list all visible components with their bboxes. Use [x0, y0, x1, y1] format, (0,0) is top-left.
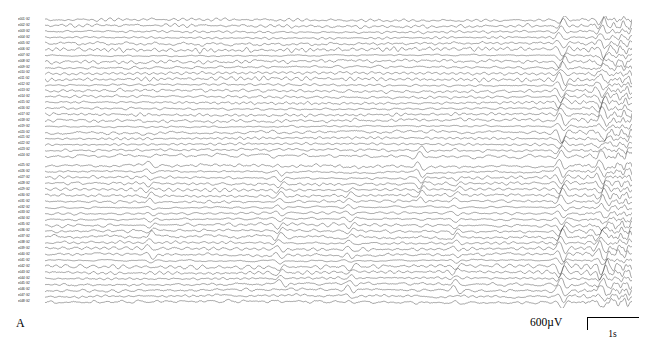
eeg-trace: [45, 45, 632, 58]
channel-label: e034 G2: [18, 217, 30, 221]
eeg-trace: [45, 93, 632, 104]
eeg-trace: [45, 236, 632, 245]
channel-label: e033 G2: [18, 211, 30, 215]
eeg-trace: [45, 82, 632, 91]
channel-label: e043 G2: [18, 270, 30, 274]
eeg-trace: [45, 173, 632, 184]
eeg-trace: [45, 167, 632, 178]
eeg-trace: [45, 160, 632, 171]
eeg-trace: [45, 258, 632, 265]
eeg-trace: [45, 25, 632, 34]
eeg-trace: [45, 298, 632, 308]
eeg-trace: [45, 61, 632, 70]
eeg-trace: [45, 70, 632, 77]
channel-label: e002 G2: [18, 24, 30, 28]
eeg-trace: [45, 249, 632, 262]
eeg-trace: [45, 181, 632, 189]
eeg-trace: [45, 150, 632, 159]
channel-label: e004 G2: [18, 36, 30, 40]
eeg-trace: [45, 211, 632, 218]
eeg-trace: [45, 278, 632, 290]
eeg-trace: [45, 129, 632, 143]
channel-label: e016 G2: [18, 107, 30, 111]
channel-label: e024 G2: [18, 154, 30, 158]
channel-label: e035 G2: [18, 223, 30, 227]
channel-label: e006 G2: [18, 48, 30, 52]
channel-label: e015 G2: [18, 101, 30, 105]
channel-label: e025 G2: [18, 164, 30, 168]
channel-label: e036 G2: [18, 229, 30, 233]
eeg-figure-panel: e001 G2e002 G2e003 G2e004 G2e005 G2e006 …: [0, 0, 649, 345]
eeg-trace: [45, 107, 632, 119]
eeg-trace: [45, 294, 632, 303]
eeg-trace: [45, 229, 632, 241]
eeg-trace: [45, 203, 632, 211]
eeg-trace: [45, 113, 632, 126]
channel-label: e027 G2: [18, 176, 30, 180]
channel-label: e014 G2: [18, 95, 30, 99]
channel-label: e011 G2: [18, 77, 30, 81]
channel-label: e013 G2: [18, 89, 30, 93]
channel-label: e030 G2: [18, 193, 30, 197]
channel-label: e003 G2: [18, 30, 30, 34]
channel-label: e040 G2: [18, 253, 30, 257]
channel-label: e032 G2: [18, 205, 30, 209]
channel-label: e037 G2: [18, 235, 30, 239]
channel-label: e041 G2: [18, 259, 30, 263]
eeg-traces: [45, 16, 632, 308]
channel-label: e046 G2: [18, 288, 30, 292]
channel-label: e017 G2: [18, 113, 30, 117]
eeg-plot-area: e001 G2e002 G2e003 G2e004 G2e005 G2e006 …: [18, 16, 632, 308]
eeg-trace: [45, 52, 632, 60]
channel-label: e039 G2: [18, 247, 30, 251]
eeg-trace: [45, 33, 632, 40]
channel-label: e020 G2: [18, 130, 30, 134]
channel-label: e029 G2: [18, 188, 30, 192]
eeg-trace: [45, 146, 632, 154]
channel-label: e038 G2: [18, 241, 30, 245]
eeg-trace: [45, 217, 632, 224]
channel-label: e008 G2: [18, 59, 30, 63]
eeg-trace: [45, 124, 632, 131]
eeg-trace: [45, 86, 632, 98]
eeg-trace: [45, 136, 632, 144]
amplitude-scale-label: 600µV: [530, 316, 562, 328]
eeg-trace: [45, 226, 632, 236]
channel-label: e021 G2: [18, 136, 30, 140]
eeg-trace: [45, 140, 632, 148]
eeg-trace: [45, 56, 632, 68]
time-scale-label: 1s: [587, 329, 638, 340]
channel-label: e009 G2: [18, 65, 30, 69]
channel-label: e026 G2: [18, 170, 30, 174]
channel-label: e010 G2: [18, 71, 30, 75]
channel-label: e048 G2: [18, 300, 30, 304]
channel-label: e023 G2: [18, 148, 30, 152]
eeg-trace: [45, 16, 632, 25]
channel-label: e028 G2: [18, 182, 30, 186]
channel-label: e007 G2: [18, 53, 30, 57]
channel-label: e045 G2: [18, 282, 30, 286]
eeg-trace: [45, 285, 632, 296]
channel-label: e031 G2: [18, 199, 30, 203]
scale-bar: 600µV 1s: [530, 316, 638, 342]
eeg-trace: [45, 184, 632, 194]
channel-label: e019 G2: [18, 124, 30, 128]
eeg-trace: [45, 40, 632, 49]
channel-label: e018 G2: [18, 119, 30, 123]
channel-label: e042 G2: [18, 264, 30, 268]
channel-label: e044 G2: [18, 276, 30, 280]
channel-label: e001 G2: [18, 18, 30, 22]
channel-label: e012 G2: [18, 83, 30, 87]
channel-label: e022 G2: [18, 142, 30, 146]
channel-label-column: e001 G2e002 G2e003 G2e004 G2e005 G2e006 …: [18, 16, 44, 308]
channel-label: e047 G2: [18, 294, 30, 298]
channel-label: e005 G2: [18, 42, 30, 46]
eeg-trace: [45, 273, 632, 281]
panel-letter: A: [16, 317, 25, 329]
eeg-trace: [45, 17, 632, 29]
